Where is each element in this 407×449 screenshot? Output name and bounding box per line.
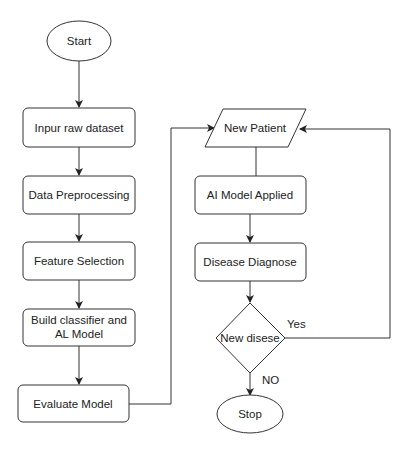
node-input-label: Inpur raw dataset (35, 122, 125, 134)
node-input: Inpur raw dataset (23, 108, 135, 147)
node-preprocess-label: Data Preprocessing (29, 189, 130, 201)
node-feature-label: Feature Selection (34, 255, 124, 267)
node-applied-label: AI Model Applied (207, 189, 293, 201)
node-build-label-line2: AL Model (55, 328, 103, 340)
node-evaluate-label: Evaluate Model (33, 398, 112, 410)
node-patient: New Patient (205, 109, 306, 147)
node-decision-label: New disese (220, 332, 279, 344)
node-evaluate: Evaluate Model (18, 385, 129, 422)
node-applied: AI Model Applied (195, 176, 306, 214)
node-start: Start (47, 21, 111, 61)
node-stop-label: Stop (238, 408, 262, 420)
node-decision: New disese (216, 303, 285, 373)
node-build-label-line1: Build classifier and (31, 314, 127, 326)
edge-decision-yes (285, 129, 390, 338)
node-stop: Stop (217, 395, 283, 433)
node-preprocess: Data Preprocessing (23, 176, 135, 214)
flowchart: Yes NO Start Inpur raw dataset Data Prep… (0, 0, 407, 449)
node-patient-label: New Patient (224, 122, 287, 134)
node-build: Build classifier and AL Model (23, 309, 135, 346)
node-feature: Feature Selection (23, 242, 135, 280)
edge-label-no: NO (262, 374, 279, 386)
node-start-label: Start (67, 35, 92, 47)
node-diagnose-label: Disease Diagnose (203, 256, 296, 268)
node-diagnose: Disease Diagnose (195, 243, 306, 281)
edge-label-yes: Yes (287, 318, 306, 330)
